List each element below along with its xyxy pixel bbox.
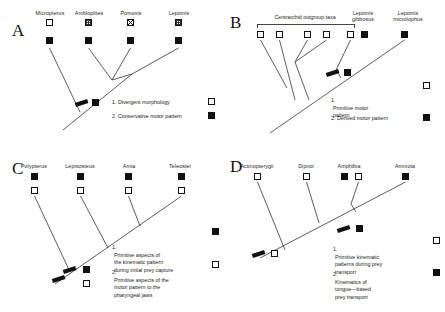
legend-num-b-1: 1.: [331, 97, 335, 103]
panel-c: C Polypterus Lepisosteus Amia Teleostei …: [0, 156, 222, 312]
legend-text-a-2: Conservative motor pattern: [118, 113, 182, 119]
legend-text-a-1: Divergent morphology: [118, 99, 170, 105]
legend-marker-c-1: [212, 228, 219, 235]
legend-marker-b-2: [423, 114, 430, 121]
legend-marker-c-2: [212, 261, 219, 268]
legend-row-b-2: 2. Derived motor pattern: [331, 115, 439, 129]
legend-row-c-2: 2. Primitive aspects of the motor patter…: [112, 269, 217, 293]
node-square-c-filled: [83, 266, 90, 273]
node-square-d-open: [271, 250, 278, 257]
legend-marker-d-1: [433, 237, 440, 244]
node-square-b-2: [344, 69, 351, 76]
legend-num-b-2: 2.: [331, 115, 335, 121]
legend-row-a-1: 1. Divergent morphology: [112, 99, 217, 113]
legend-row-b-1: 1. Primitive motor pattern: [331, 97, 439, 113]
legend-d: 1. Primitive kinematic patterns during p…: [333, 246, 441, 295]
legend-row-d-1: 1. Primitive kinematic patterns during p…: [333, 246, 441, 270]
legend-row-a-2: 2. Conservative motor pattern: [112, 113, 217, 127]
legend-marker-d-2: [433, 269, 440, 276]
cladogram-b: [223, 0, 445, 156]
node-square-c-open: [83, 280, 90, 287]
legend-text-d-2: Kinematics of tongue—based prey transpor…: [333, 279, 441, 302]
legend-num-a-2: 2.: [112, 113, 116, 119]
legend-row-d-2: 2. Kinematics of tongue—based prey trans…: [333, 271, 441, 295]
legend-num-c-2: 2.: [112, 269, 116, 275]
legend-num-a-1: 1.: [112, 99, 116, 105]
legend-c: 1. Primitive aspects of the kinematic pa…: [112, 244, 217, 293]
panel-b: B Centrarchid outgroup taxa Lepomis gibb…: [223, 0, 445, 156]
legend-marker-a-2: [208, 112, 215, 119]
panel-a: A Micropterus Ambloplites Pomoxis Lepomi…: [0, 0, 222, 156]
legend-num-c-1: 1.: [112, 244, 116, 250]
legend-text-c-2: Primitive aspects of the motor pattern t…: [112, 277, 217, 300]
legend-text-b-2: Derived motor pattern: [337, 115, 388, 121]
legend-a: 1. Divergent morphology 2. Conservative …: [112, 99, 217, 127]
figure-root: A Micropterus Ambloplites Pomoxis Lepomi…: [0, 0, 445, 312]
legend-marker-a-1: [208, 98, 215, 105]
legend-b: 1. Primitive motor pattern 2. Derived mo…: [331, 97, 439, 129]
node-square-a-2: [92, 99, 99, 106]
node-square-d-filled: [356, 225, 363, 232]
legend-num-d-1: 1.: [333, 246, 337, 252]
legend-row-c-1: 1. Primitive aspects of the kinematic pa…: [112, 244, 217, 268]
panel-d: D Actinopterygii Dipnoi Amphibia Amniota…: [223, 156, 445, 312]
legend-marker-b-1: [423, 82, 430, 89]
cladogram-a: [0, 0, 222, 156]
legend-num-d-2: 2.: [333, 271, 337, 277]
